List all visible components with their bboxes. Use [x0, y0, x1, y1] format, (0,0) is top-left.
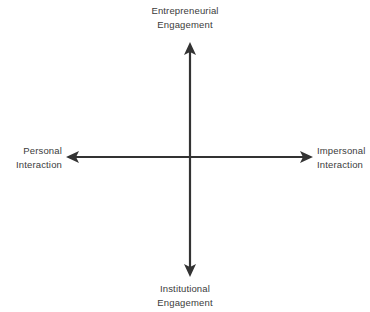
axis-label-left: Personal Interaction	[0, 144, 62, 171]
axis-label-left-line-2: Interaction	[0, 158, 62, 172]
axis-label-right-line-1: Impersonal	[317, 144, 366, 158]
axis-label-top-line-2: Engagement	[0, 18, 370, 32]
axis-label-top: Entrepreneurial Engagement	[0, 4, 370, 31]
axis-label-bottom-line-2: Engagement	[0, 296, 370, 310]
axis-label-bottom-line-1: Institutional	[0, 282, 370, 296]
axis-label-right-line-2: Interaction	[317, 158, 366, 172]
axis-label-right: Impersonal Interaction	[317, 144, 366, 171]
axis-label-bottom: Institutional Engagement	[0, 282, 370, 309]
axis-label-left-line-1: Personal	[0, 144, 62, 158]
axis-label-top-line-1: Entrepreneurial	[0, 4, 370, 18]
